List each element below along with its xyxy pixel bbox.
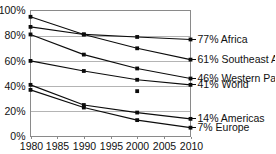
series-end-label-europe: 7% Europe [198,121,250,133]
data-point-marker [82,33,86,37]
data-point-marker [135,111,139,115]
x-axis-tick-label: 2000 [126,140,150,152]
x-axis-tick-label: 1995 [100,140,124,152]
chart-container: 0%20%40%60%80%100%1980198519901995200020… [0,0,275,154]
data-point-marker [135,46,139,50]
data-point-marker [135,35,139,39]
line-chart: 0%20%40%60%80%100%1980198519901995200020… [0,0,275,154]
y-axis-tick-label: 40% [4,80,25,92]
x-axis-tick-label: 1980 [20,140,44,152]
data-point-marker [135,67,139,71]
data-point-marker [29,25,33,29]
series-end-label-africa: 77% Africa [198,33,248,45]
y-axis-tick-label: 20% [4,105,25,117]
data-point-marker [29,88,33,92]
x-axis-tick-label: 1990 [73,140,97,152]
series-end-label-world: 41% World [198,78,249,90]
y-axis-tick-label: 100% [0,4,26,16]
y-axis-tick-label: 60% [4,55,25,67]
data-point-marker [29,83,33,87]
data-point-marker [29,33,33,37]
isolated-data-point-marker [135,89,139,93]
data-point-marker [82,106,86,110]
x-axis-tick-label: 1985 [46,140,70,152]
series-line-world [31,61,191,85]
data-point-marker [135,118,139,122]
data-point-marker [82,69,86,73]
data-point-marker [135,78,139,82]
data-point-marker [29,15,33,19]
y-axis-tick-label: 80% [4,29,25,41]
data-point-marker [82,53,86,57]
data-point-marker [29,59,33,63]
x-axis-tick-label: 2005 [153,140,177,152]
x-axis-tick-label: 2010 [180,140,204,152]
series-end-label-southeast-asia: 61% Southeast Asia [198,53,276,65]
